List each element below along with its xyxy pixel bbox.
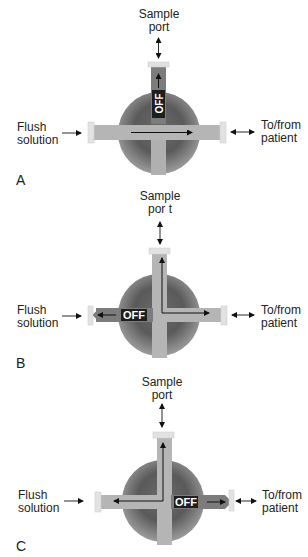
stopcock-diagram-graphics — [0, 0, 308, 557]
flush-port-cap — [88, 122, 94, 143]
flush-port-cap — [95, 492, 101, 512]
flush-port-cap — [88, 306, 93, 325]
panel-c-letter: C — [16, 538, 26, 554]
panel-b-stopcock — [62, 222, 254, 358]
panel-b-sample-port-label: Sample por t — [139, 190, 181, 216]
sample-port-cap — [148, 62, 169, 67]
panel-a-patient-label: To/from patient — [261, 119, 301, 145]
vertical-channel-open — [152, 252, 167, 358]
panel-c-stopcock — [64, 404, 256, 545]
panel-a-sample-port-label: Sample port — [138, 8, 180, 34]
panel-a-letter: A — [16, 172, 25, 188]
panel-c-flush-label: Flush solution — [18, 489, 59, 515]
sample-port-cap — [153, 432, 174, 438]
panel-b-letter: B — [16, 355, 25, 371]
left-channel-open — [100, 495, 172, 509]
patient-port-cap — [221, 306, 227, 325]
vertical-channel-open — [157, 437, 172, 545]
panel-b-off-text: OFF — [122, 309, 146, 322]
patient-port-cap — [229, 490, 234, 511]
right-channel-open — [160, 308, 223, 322]
panel-b-patient-label: To/from patient — [261, 304, 301, 330]
panel-a-flush-label: Flush solution — [17, 121, 58, 147]
panel-c-patient-label: To/from patient — [262, 489, 302, 515]
patient-port-cap — [220, 122, 226, 143]
sample-port-cap — [149, 248, 170, 254]
panel-c-off-text: OFF — [174, 496, 198, 509]
panel-a-off-text: OFF — [153, 94, 166, 114]
panel-b-flush-label: Flush solution — [17, 304, 58, 330]
panel-c-sample-port-label: Sample port — [141, 376, 183, 402]
